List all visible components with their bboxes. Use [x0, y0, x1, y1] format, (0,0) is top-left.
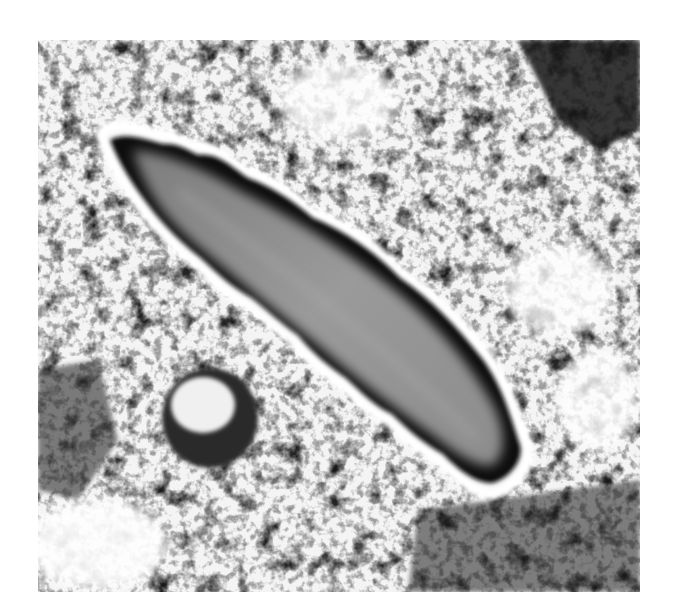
photo-canvas — [38, 40, 640, 592]
flatworm-photo — [38, 40, 640, 592]
round-rock — [162, 368, 258, 468]
